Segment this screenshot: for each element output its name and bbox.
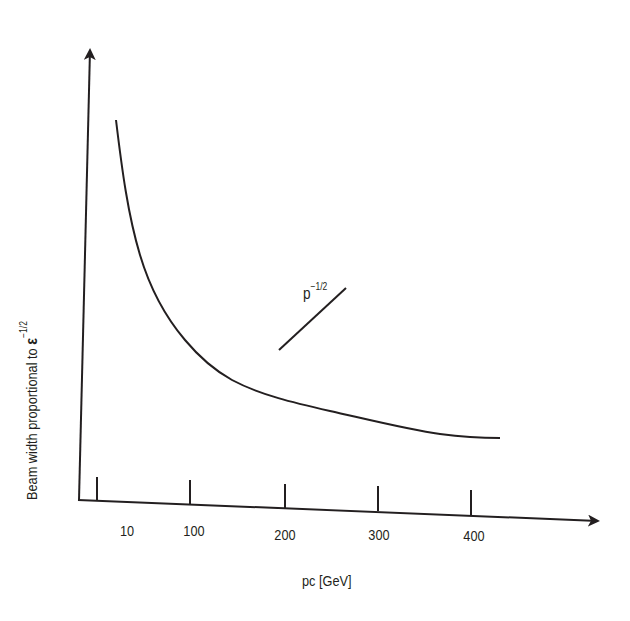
x-axis [78, 500, 598, 521]
x-tick-label-100: 100 [183, 522, 204, 539]
slope-annotation-base: p [303, 285, 311, 302]
x-axis-label: pc [GeV] [302, 572, 352, 589]
y-axis-label-text: Beam width proportional to [23, 345, 40, 500]
x-tick-label-200: 200 [274, 526, 295, 543]
chart-canvas [0, 0, 630, 621]
y-axis-label-exponent: −1/2 [18, 321, 29, 338]
y-axis [79, 50, 90, 500]
x-tick-label-300: 300 [368, 526, 389, 543]
epsilon-symbol: ε [22, 338, 41, 345]
y-axis-label: Beam width proportional to ε−1/2 [22, 321, 42, 500]
slope-annotation: p−1/2 [303, 285, 327, 303]
x-tick-label-400: 400 [463, 527, 484, 544]
beam-width-curve [116, 120, 500, 438]
slope-annotation-exponent: −1/2 [311, 281, 328, 292]
x-tick-label-10: 10 [120, 522, 134, 539]
